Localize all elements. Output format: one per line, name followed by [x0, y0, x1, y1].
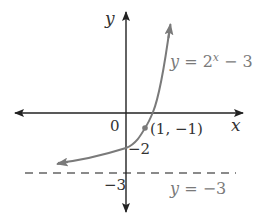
- asymptote-equation-label: y = −3: [169, 179, 226, 198]
- asymptote-tick-label: −3: [104, 176, 126, 194]
- x-axis-label: x: [231, 115, 241, 135]
- asym-eq-rest: = −3: [179, 179, 226, 198]
- origin-label: 0: [110, 117, 120, 135]
- point-marker: [142, 125, 148, 131]
- y-axis-label: y: [104, 8, 115, 28]
- curve-eq-base: = 2: [179, 52, 213, 71]
- curve-eq-rest: − 3: [219, 52, 253, 71]
- curve-y-2x-minus-3: [58, 26, 170, 163]
- y-intercept-label: −2: [128, 140, 150, 158]
- point-label: (1, −1): [150, 120, 203, 138]
- curve-arrow-top: [169, 24, 171, 38]
- exponential-graph: y x 0 −2 −3 (1, −1) y = 2x − 3 y = −3: [0, 0, 258, 214]
- curve-equation-label: y = 2x − 3: [169, 51, 253, 71]
